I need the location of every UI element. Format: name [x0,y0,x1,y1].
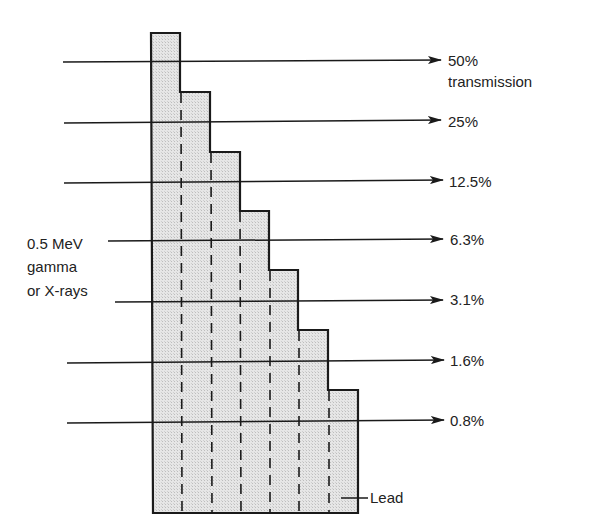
label-1-6: 1.6% [450,352,484,369]
lead-attenuation-diagram: 50% transmission 25% 12.5% 6.3% 3.1% 1.6… [0,0,596,529]
label-0-8: 0.8% [450,412,484,429]
arrow-25 [64,120,441,123]
label-50: 50% [448,52,478,69]
label-12-5: 12.5% [449,173,492,190]
label-transmission: transmission [448,73,532,90]
source-label-line2: gamma [27,258,78,275]
source-label-line3: or X-rays [27,282,88,299]
material-label-lead: Lead [370,489,403,506]
label-6-3: 6.3% [450,231,484,248]
source-label-line1: 0.5 MeV [27,235,83,252]
label-3-1: 3.1% [450,291,484,308]
arrow-50 [63,60,441,62]
label-25: 25% [448,113,478,130]
arrow-12-5 [64,180,443,183]
